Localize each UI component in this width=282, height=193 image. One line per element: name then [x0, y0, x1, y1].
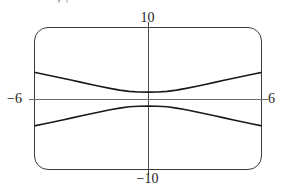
hyperbola-curve-layer: [0, 0, 282, 193]
figure-canvas: y₁ 10 −10 −6 6: [0, 0, 282, 193]
x-min-tick-label: −6: [7, 92, 22, 106]
y-min-tick-label: −10: [0, 172, 282, 186]
x-max-tick-label: 6: [268, 92, 275, 106]
hyperbola-upper-branch: [34, 72, 262, 92]
hyperbola-lower-branch: [34, 106, 262, 126]
y-max-tick-label: 10: [0, 11, 282, 25]
